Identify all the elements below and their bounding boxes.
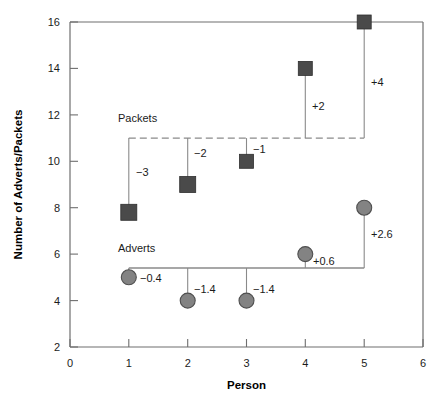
- adverts-delta-label-5: +2.6: [371, 228, 393, 240]
- x-axis-ticks: 0 1 2 3 4 5 6: [67, 339, 426, 369]
- packets-marker-4[interactable]: [298, 61, 312, 75]
- x-axis-title: Person: [227, 379, 266, 391]
- y-tick-label-4: 4: [54, 295, 60, 307]
- y-tick-label-2: 2: [54, 341, 60, 353]
- adverts-marker-2[interactable]: [180, 293, 195, 308]
- packets-marker-5[interactable]: [357, 15, 371, 29]
- chart-container: 2 4 6 8 10 12 14 16 0 1 2 3 4 5 6 P: [0, 0, 441, 399]
- x-tick-label-2: 2: [185, 357, 191, 369]
- adverts-delta-label-1: −0.4: [140, 272, 162, 284]
- packets-delta-label-3: −1: [253, 143, 266, 155]
- adverts-marker-1[interactable]: [121, 270, 136, 285]
- y-tick-label-12: 12: [48, 109, 60, 121]
- adverts-series-label: Adverts: [118, 242, 156, 254]
- packets-marker-3[interactable]: [240, 154, 254, 168]
- adverts-delta-label-2: −1.4: [194, 283, 216, 295]
- y-tick-label-8: 8: [54, 202, 60, 214]
- chart-plot-area: 2 4 6 8 10 12 14 16 0 1 2 3 4 5 6 P: [0, 0, 441, 399]
- packets-delta-label-4: +2: [312, 100, 325, 112]
- x-tick-label-5: 5: [361, 357, 367, 369]
- adverts-marker-5[interactable]: [357, 200, 372, 215]
- y-tick-label-10: 10: [48, 155, 60, 167]
- packets-series-label: Packets: [118, 112, 158, 124]
- x-tick-label-0: 0: [67, 357, 73, 369]
- y-axis-ticks: 2 4 6 8 10 12 14 16: [48, 16, 78, 353]
- packets-marker-2[interactable]: [180, 177, 196, 193]
- y-tick-label-14: 14: [48, 62, 60, 74]
- y-tick-label-16: 16: [48, 16, 60, 28]
- x-tick-label-3: 3: [243, 357, 249, 369]
- adverts-delta-label-3: −1.4: [253, 283, 275, 295]
- y-tick-label-6: 6: [54, 248, 60, 260]
- y-axis-title: Number of Adverts/Packets: [12, 110, 24, 260]
- packets-delta-label-5: +4: [371, 76, 384, 88]
- packets-marker-1[interactable]: [121, 204, 137, 220]
- adverts-marker-3[interactable]: [239, 293, 254, 308]
- packets-delta-label-1: −3: [136, 166, 149, 178]
- packets-series: −3 −2 −1 +2 +4 Packets: [118, 15, 384, 220]
- packets-delta-label-2: −2: [194, 147, 207, 159]
- x-tick-label-4: 4: [302, 357, 308, 369]
- adverts-marker-4[interactable]: [298, 247, 313, 262]
- adverts-delta-label-4: +0.6: [313, 255, 335, 267]
- x-tick-label-6: 6: [420, 357, 426, 369]
- adverts-series: −0.4 −1.4 −1.4 +0.6 +2.6 Adverts: [118, 200, 393, 308]
- x-tick-label-1: 1: [126, 357, 132, 369]
